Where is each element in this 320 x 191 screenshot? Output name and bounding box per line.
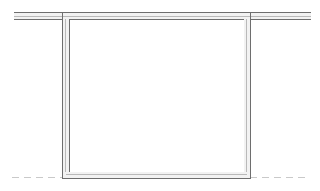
technical-drawing-canvas — [0, 0, 320, 191]
left-wall — [63, 13, 70, 179]
right-wall — [244, 13, 251, 179]
interior-opening — [70, 20, 244, 172]
top-beam-right-wing — [250, 13, 311, 20]
bottom-sill — [63, 172, 251, 179]
top-beam-span — [62, 13, 250, 20]
line-drawing-svg — [0, 0, 320, 191]
top-beam-left-wing — [14, 13, 62, 20]
